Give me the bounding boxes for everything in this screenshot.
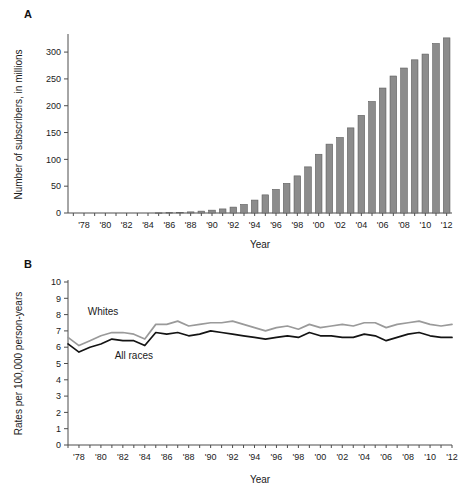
x-tick-label: '88 [183,452,195,462]
bar [155,213,162,214]
bar [294,176,301,213]
x-tick-label: '10 [424,452,436,462]
x-tick-label: '98 [293,452,305,462]
x-tick-label: '02 [334,220,346,230]
y-tick-label: 0 [56,440,61,450]
x-tick-label: '04 [355,220,367,230]
y-tick-label: 2 [56,408,61,418]
series-line [68,321,452,345]
x-tick-label: '94 [249,220,261,230]
y-tick-label: 3 [56,391,61,401]
x-tick-label: '02 [336,452,348,462]
y-tick-label: 50 [51,181,61,191]
bar [283,183,290,213]
series-label: Whites [88,306,119,317]
bar [401,68,408,213]
bar [411,60,418,213]
x-axis-title: Year [250,474,271,485]
bar [198,211,205,213]
y-tick-label: 7 [56,326,61,336]
y-tick-label: 6 [56,342,61,352]
panel-a-bar-chart: 050100150200250300'78'80'82'84'86'88'90'… [0,0,464,250]
x-tick-label: '98 [291,220,303,230]
bar [241,204,248,213]
bar [379,88,386,213]
bar [422,54,429,213]
figure-container: A B 050100150200250300'78'80'82'84'86'88… [0,0,464,503]
x-tick-label: '78 [73,452,85,462]
x-tick-label: '84 [142,220,154,230]
y-tick-label: 5 [56,359,61,369]
bar [209,210,216,213]
x-tick-label: '12 [446,452,458,462]
y-tick-label: 9 [56,294,61,304]
x-tick-label: '92 [227,452,239,462]
bar [358,115,365,213]
x-axis-title: Year [250,239,271,250]
y-tick-label: 10 [51,277,61,287]
bar [347,128,354,213]
bar [262,195,269,213]
x-tick-label: '08 [402,452,414,462]
bar [433,44,440,213]
y-tick-label: 100 [46,155,61,165]
x-tick-label: '92 [227,220,239,230]
y-tick-label: 300 [46,47,61,57]
x-tick-label: '82 [117,452,129,462]
x-tick-label: '96 [271,452,283,462]
x-tick-label: '94 [249,452,261,462]
x-tick-label: '12 [441,220,453,230]
bar [305,167,312,213]
bar [251,200,258,213]
x-tick-label: '08 [398,220,410,230]
x-tick-label: '04 [358,452,370,462]
bar [326,144,333,213]
x-tick-label: '06 [380,452,392,462]
series-label: All races [115,350,153,361]
x-tick-label: '80 [95,452,107,462]
x-tick-label: '06 [377,220,389,230]
bar [390,76,397,213]
x-tick-label: '00 [313,220,325,230]
bar [315,154,322,213]
bar [177,212,184,213]
x-tick-label: '78 [78,220,90,230]
y-axis-title: Number of subscribers, in millions [13,49,24,199]
bar [273,189,280,213]
y-tick-label: 1 [56,424,61,434]
y-tick-label: 250 [46,74,61,84]
y-tick-label: 4 [56,375,61,385]
bar [187,212,194,213]
y-tick-label: 200 [46,101,61,111]
y-tick-label: 150 [46,128,61,138]
bar [337,137,344,213]
x-tick-label: '88 [185,220,197,230]
x-tick-label: '84 [139,452,151,462]
x-tick-label: '82 [121,220,133,230]
bar [443,38,450,213]
x-tick-label: '90 [206,220,218,230]
x-tick-label: '86 [163,220,175,230]
y-axis-title: Rates per 100,000 person-years [13,292,24,435]
bar [230,207,237,213]
bar [219,209,226,213]
bar [369,101,376,213]
x-tick-label: '96 [270,220,282,230]
x-tick-label: '86 [161,452,173,462]
x-tick-label: '90 [205,452,217,462]
x-tick-label: '00 [314,452,326,462]
y-tick-label: 0 [56,208,61,218]
bar [166,213,173,214]
panel-b-line-chart: 012345678910'78'80'82'84'86'88'90'92'94'… [0,250,464,503]
x-tick-label: '10 [419,220,431,230]
y-tick-label: 8 [56,310,61,320]
x-tick-label: '80 [99,220,111,230]
